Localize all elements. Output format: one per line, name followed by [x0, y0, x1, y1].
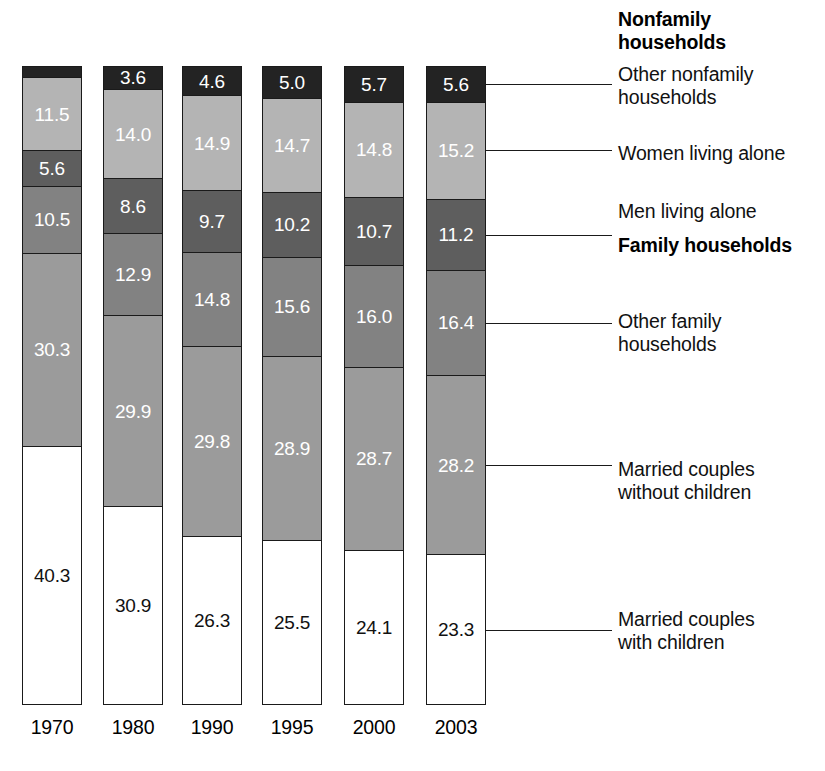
- plot-area: 1.711.55.610.530.340.319703.614.08.612.9…: [0, 0, 825, 771]
- stacked-bar[interactable]: 5.714.810.716.028.724.1: [344, 66, 404, 705]
- segment-value-label: 15.6: [274, 297, 310, 316]
- bar-segment-women-alone[interactable]: 14.7: [263, 99, 321, 193]
- legend-label-other-nonfamily[interactable]: Other nonfamily households: [618, 63, 753, 109]
- bar-segment-married-with[interactable]: 40.3: [23, 447, 81, 704]
- bar-segment-women-alone[interactable]: 14.8: [345, 103, 403, 197]
- legend-label-heading-0[interactable]: Nonfamily households: [618, 8, 726, 54]
- segment-value-label: 8.6: [120, 197, 146, 216]
- bar-segment-married-without[interactable]: 29.8: [183, 347, 241, 537]
- bar-segment-other-family[interactable]: 16.0: [345, 266, 403, 368]
- segment-value-label: 26.3: [194, 611, 230, 630]
- bar-segment-other-family[interactable]: 10.5: [23, 187, 81, 254]
- segment-value-label: 29.9: [115, 402, 151, 421]
- segment-value-label: 3.6: [120, 68, 146, 87]
- segment-value-label: 15.2: [438, 141, 474, 160]
- segment-value-label: 28.2: [438, 456, 474, 475]
- bar-segment-other-nonfamily[interactable]: 3.6: [104, 67, 162, 90]
- segment-value-label: 16.0: [356, 307, 392, 326]
- segment-value-label: 23.3: [438, 620, 474, 639]
- segment-value-label: 28.9: [274, 439, 310, 458]
- segment-value-label: 40.3: [34, 566, 70, 585]
- stacked-bar-chart: 1.711.55.610.530.340.319703.614.08.612.9…: [0, 0, 825, 771]
- bar-segment-married-with[interactable]: 24.1: [345, 551, 403, 705]
- bar-segment-married-without[interactable]: 29.9: [104, 316, 162, 507]
- segment-value-label: 5.0: [279, 73, 305, 92]
- bar-group-2000: 5.714.810.716.028.724.1: [344, 66, 404, 705]
- bar-segment-other-nonfamily[interactable]: 5.7: [345, 67, 403, 103]
- bar-segment-married-without[interactable]: 28.7: [345, 368, 403, 551]
- bar-segment-men-alone[interactable]: 8.6: [104, 179, 162, 234]
- segment-value-label: 14.9: [194, 134, 230, 153]
- bar-segment-women-alone[interactable]: 11.5: [23, 78, 81, 151]
- bar-segment-women-alone[interactable]: 15.2: [427, 103, 485, 200]
- legend-label-women-alone[interactable]: Women living alone: [618, 142, 785, 165]
- legend-leader-line-married-without: [486, 465, 612, 466]
- bar-segment-married-without[interactable]: 28.2: [427, 376, 485, 556]
- segment-value-label: 11.5: [35, 105, 70, 124]
- bar-segment-other-nonfamily[interactable]: 1.7: [23, 67, 81, 78]
- segment-value-label: 4.6: [199, 72, 225, 91]
- segment-value-label: 30.3: [34, 340, 70, 359]
- bar-segment-married-with[interactable]: 23.3: [427, 555, 485, 704]
- segment-value-label: 9.7: [199, 212, 225, 231]
- segment-value-label: 10.5: [34, 210, 70, 229]
- legend-leader-line-other-nonfamily: [486, 84, 612, 85]
- segment-value-label: 16.4: [438, 313, 474, 332]
- segment-value-label: 14.0: [115, 125, 151, 144]
- bar-group-1995: 5.014.710.215.628.925.5: [262, 66, 322, 705]
- stacked-bar[interactable]: 5.014.710.215.628.925.5: [262, 66, 322, 705]
- legend-label-other-family[interactable]: Other family households: [618, 310, 721, 356]
- x-axis-tick-1970: 1970: [22, 716, 82, 739]
- bar-segment-married-with[interactable]: 26.3: [183, 537, 241, 704]
- segment-value-label: 29.8: [194, 432, 230, 451]
- segment-value-label: 12.9: [115, 265, 151, 284]
- bar-segment-men-alone[interactable]: 11.2: [427, 200, 485, 271]
- bar-segment-men-alone[interactable]: 5.6: [23, 151, 81, 187]
- legend-label-heading-4[interactable]: Family households: [618, 234, 792, 257]
- legend-label-married-with[interactable]: Married couples with children: [618, 608, 754, 654]
- bar-segment-men-alone[interactable]: 9.7: [183, 191, 241, 253]
- legend-leader-line-men-alone: [486, 235, 612, 236]
- legend-leader-line-other-family: [486, 323, 612, 324]
- bar-segment-men-alone[interactable]: 10.2: [263, 193, 321, 258]
- bar-segment-other-nonfamily[interactable]: 5.0: [263, 67, 321, 99]
- bar-segment-other-family[interactable]: 14.8: [183, 253, 241, 347]
- legend-label-married-without[interactable]: Married couples without children: [618, 458, 754, 504]
- segment-value-label: 10.2: [274, 215, 310, 234]
- stacked-bar[interactable]: 3.614.08.612.929.930.9: [103, 66, 163, 705]
- stacked-bar[interactable]: 4.614.99.714.829.826.3: [182, 66, 242, 705]
- bar-segment-men-alone[interactable]: 10.7: [345, 198, 403, 266]
- bar-segment-married-without[interactable]: 30.3: [23, 254, 81, 447]
- bar-segment-married-with[interactable]: 30.9: [104, 507, 162, 704]
- bar-segment-other-nonfamily[interactable]: 4.6: [183, 67, 241, 96]
- bar-segment-other-family[interactable]: 15.6: [263, 258, 321, 357]
- segment-value-label: 5.7: [361, 75, 387, 94]
- legend-leader-line-women-alone: [486, 150, 612, 151]
- bar-segment-other-family[interactable]: 16.4: [427, 271, 485, 376]
- bar-segment-other-family[interactable]: 12.9: [104, 234, 162, 316]
- bar-segment-women-alone[interactable]: 14.9: [183, 96, 241, 191]
- bar-group-1990: 4.614.99.714.829.826.3: [182, 66, 242, 705]
- bar-segment-married-without[interactable]: 28.9: [263, 357, 321, 541]
- stacked-bar[interactable]: 5.615.211.216.428.223.3: [426, 66, 486, 705]
- x-axis-tick-2003: 2003: [426, 716, 486, 739]
- x-axis-tick-1980: 1980: [103, 716, 163, 739]
- segment-value-label: 14.8: [194, 290, 230, 309]
- bar-segment-women-alone[interactable]: 14.0: [104, 90, 162, 179]
- stacked-bar[interactable]: 1.711.55.610.530.340.3: [22, 66, 82, 705]
- segment-value-label: 10.7: [356, 222, 392, 241]
- segment-value-label: 14.8: [356, 140, 392, 159]
- legend-label-men-alone[interactable]: Men living alone: [618, 200, 757, 223]
- bar-group-1970: 1.711.55.610.530.340.3: [22, 66, 82, 705]
- segment-value-label: 14.7: [274, 136, 310, 155]
- bar-segment-married-with[interactable]: 25.5: [263, 541, 321, 704]
- x-axis-tick-2000: 2000: [344, 716, 404, 739]
- segment-value-label: 24.1: [356, 618, 392, 637]
- segment-value-label: 11.2: [439, 225, 474, 244]
- bar-group-2003: 5.615.211.216.428.223.3: [426, 66, 486, 705]
- bar-segment-other-nonfamily[interactable]: 5.6: [427, 67, 485, 103]
- bar-group-1980: 3.614.08.612.929.930.9: [103, 66, 163, 705]
- segment-value-label: 25.5: [274, 613, 310, 632]
- legend-leader-line-married-with: [486, 630, 612, 631]
- x-axis-tick-1990: 1990: [182, 716, 242, 739]
